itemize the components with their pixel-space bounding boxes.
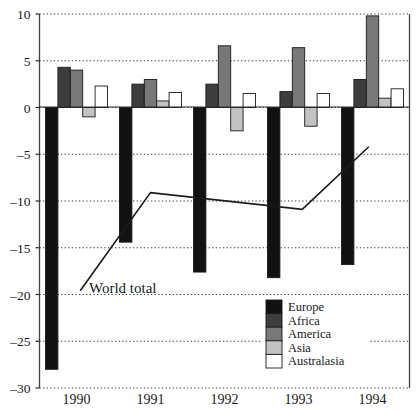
- bar-africa-1991: [132, 84, 144, 107]
- legend-swatch-australasia: [266, 354, 282, 368]
- legend-swatch-africa: [266, 314, 282, 328]
- bar-asia-1992: [231, 108, 243, 131]
- bar-asia-1990: [83, 108, 95, 117]
- bar-chart: 1050–5–10–15–20–25–30 World total Europe…: [0, 0, 416, 412]
- y-tick-label--30: –30: [9, 381, 31, 396]
- bar-america-1991: [144, 79, 156, 107]
- bar-australasia-1991: [169, 93, 181, 108]
- y-tick-label--5: –5: [16, 147, 31, 162]
- legend-label-asia: Asia: [288, 341, 311, 355]
- bar-asia-1994: [379, 98, 391, 107]
- bar-europe-1992: [194, 108, 206, 273]
- legend-swatch-asia: [266, 341, 282, 355]
- legend-label-europe: Europe: [288, 300, 325, 314]
- chart-legend: EuropeAfricaAmericaAsiaAustralasia: [262, 297, 370, 369]
- x-tick-label-1990: 1990: [63, 392, 91, 407]
- legend-swatch-america: [266, 327, 282, 341]
- x-tick-label-1994: 1994: [359, 392, 387, 407]
- bar-europe-1990: [46, 108, 58, 370]
- bar-australasia-1994: [391, 89, 403, 108]
- world-total-annotation-label: World total: [89, 280, 157, 296]
- bar-america-1990: [70, 70, 82, 107]
- legend-label-australasia: Australasia: [288, 354, 345, 368]
- chart-container: 1050–5–10–15–20–25–30 World total Europe…: [0, 0, 416, 412]
- legend-label-africa: Africa: [288, 314, 320, 328]
- bar-america-1994: [366, 16, 378, 108]
- x-tick-label-1993: 1993: [285, 392, 313, 407]
- bar-asia-1993: [305, 108, 317, 127]
- y-tick-label-10: 10: [17, 7, 31, 22]
- legend-label-america: America: [288, 327, 331, 341]
- bar-africa-1990: [58, 67, 70, 107]
- x-tick-label-1991: 1991: [137, 392, 165, 407]
- bar-australasia-1993: [317, 93, 329, 107]
- y-tick-labels: 1050–5–10–15–20–25–30: [9, 7, 31, 396]
- bar-europe-1993: [268, 108, 280, 278]
- bar-africa-1993: [280, 92, 292, 108]
- y-tick-label-5: 5: [24, 54, 31, 69]
- bar-africa-1992: [206, 84, 218, 107]
- y-tick-label--20: –20: [9, 288, 31, 303]
- bar-america-1993: [292, 48, 304, 108]
- bar-australasia-1990: [95, 86, 107, 108]
- bar-australasia-1992: [243, 93, 255, 107]
- y-tick-label-0: 0: [24, 101, 31, 116]
- x-tick-label-1992: 1992: [211, 392, 239, 407]
- legend-swatch-europe: [266, 300, 282, 314]
- y-tick-label--15: –15: [9, 241, 31, 256]
- y-tick-label--10: –10: [9, 194, 31, 209]
- y-tick-label--25: –25: [9, 334, 31, 349]
- bar-europe-1994: [342, 108, 354, 265]
- x-tick-labels: 19901991199219931994: [63, 392, 387, 407]
- bar-africa-1994: [354, 79, 366, 107]
- bar-america-1992: [218, 46, 230, 108]
